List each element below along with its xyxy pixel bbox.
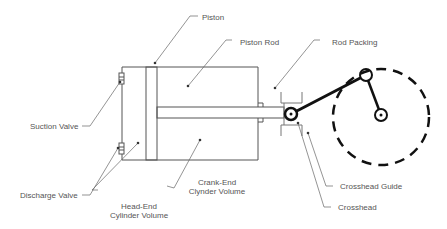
rod-packing	[258, 103, 263, 122]
label-crosshead-guide: Crosshead Guide	[340, 182, 402, 191]
piston-rod	[157, 107, 284, 118]
label-discharge-valve: Discharge Valve	[20, 191, 78, 200]
label-crank-end-volume: Crank-End Clynder Volume	[182, 178, 252, 196]
label-piston-rod: Piston Rod	[240, 38, 279, 47]
label-suction-valve: Suction Valve	[30, 122, 78, 131]
cylinder	[122, 67, 258, 160]
label-piston: Piston	[202, 13, 224, 22]
discharge-valve	[119, 143, 124, 154]
label-head-end-volume: Head-End Cylinder Volume	[104, 202, 174, 220]
piston	[146, 67, 157, 160]
label-crosshead: Crosshead	[338, 203, 377, 212]
label-rod-packing: Rod Packing	[332, 38, 377, 47]
